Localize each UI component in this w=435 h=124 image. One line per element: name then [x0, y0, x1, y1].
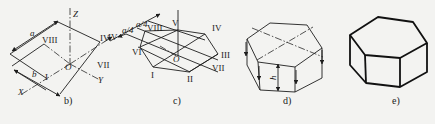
vertical-edge [365, 55, 366, 83]
caption-b: b) [64, 95, 72, 107]
label-viii: VIII [42, 35, 58, 45]
label-origin: O [65, 62, 72, 72]
label-ii: II [187, 74, 193, 84]
caption-d: d) [283, 95, 291, 107]
caption-c: c) [173, 95, 181, 107]
top-face [350, 17, 427, 58]
label-v: V [172, 18, 179, 28]
label-iv-left: IV [108, 32, 118, 42]
label-viii: VIII [147, 23, 163, 33]
label-a: a [30, 28, 35, 38]
label-iv: IV [212, 23, 222, 33]
line-through-i [10, 54, 46, 78]
label-vi: VI [132, 47, 142, 57]
panel-b: Z a VIII IV O VII Y b I X [10, 8, 112, 97]
line-viii [12, 44, 44, 66]
label-a4-1: a/4 [122, 25, 134, 35]
label-y: Y [98, 75, 104, 85]
label-h: h [268, 75, 278, 80]
centerline [252, 28, 323, 57]
centerline [257, 27, 313, 60]
label-x: X [17, 87, 24, 97]
panel-e [350, 17, 427, 87]
hexagonal-prism-isometric-figure: Z a VIII IV O VII Y b I X IV a/4 a/4 VII… [0, 0, 435, 124]
label-origin: O [173, 54, 180, 64]
label-b: b [32, 69, 37, 79]
panel-c: IV a/4 a/4 VIII V IV VI O III VII I II [108, 10, 230, 84]
axis-viii [44, 44, 70, 64]
side-outline [350, 35, 427, 87]
caption-e: e) [392, 95, 400, 107]
label-z: Z [73, 9, 79, 19]
label-i: I [151, 70, 154, 80]
y-axis [70, 64, 100, 80]
panel-d: h [246, 23, 323, 92]
label-vii: VII [212, 63, 225, 73]
label-vii: VII [97, 60, 110, 70]
label-iii: III [221, 50, 230, 60]
top-face [247, 23, 322, 67]
label-i: I [45, 72, 48, 82]
